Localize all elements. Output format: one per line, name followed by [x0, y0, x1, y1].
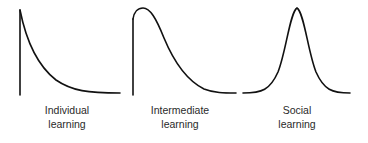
label-line-2: learning — [125, 117, 235, 131]
learning-curves-diagram: Individual learning Intermediate learnin… — [0, 0, 368, 143]
label-line-2: learning — [12, 117, 122, 131]
intermediate-learning-curve — [133, 8, 236, 95]
label-line-1: Intermediate — [125, 103, 235, 117]
social-learning-label: Social learning — [242, 103, 352, 131]
label-line-2: learning — [242, 117, 352, 131]
intermediate-learning-label: Intermediate learning — [125, 103, 235, 131]
label-line-1: Individual — [12, 103, 122, 117]
label-line-1: Social — [242, 103, 352, 117]
social-learning-curve — [243, 8, 350, 93]
individual-learning-curve — [20, 10, 120, 95]
individual-learning-label: Individual learning — [12, 103, 122, 131]
